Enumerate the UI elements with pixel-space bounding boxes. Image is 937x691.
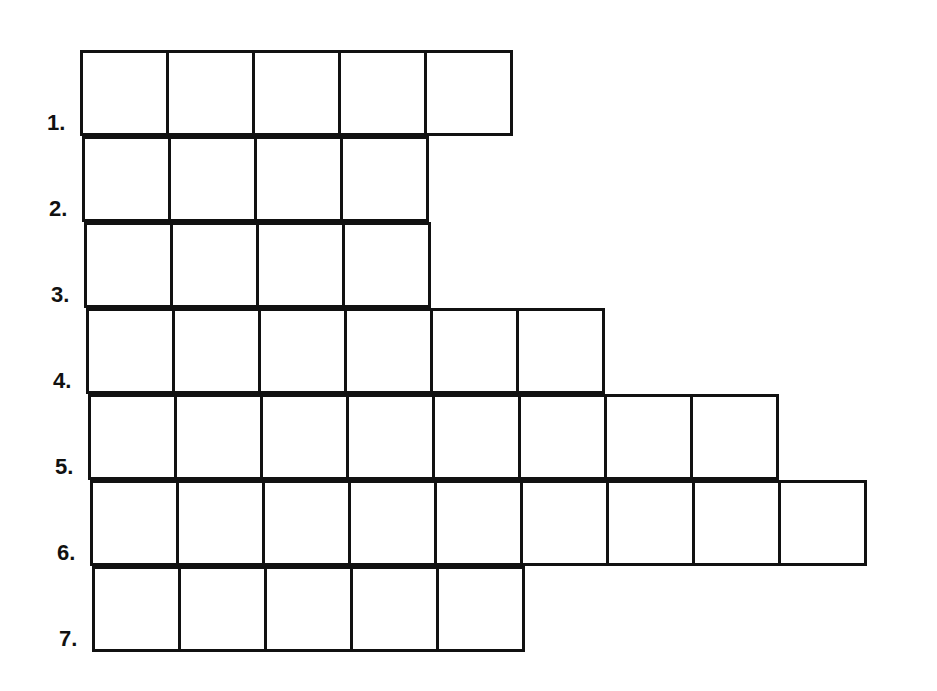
- letter-cell[interactable]: [344, 308, 433, 394]
- grid-row-5: [88, 394, 776, 477]
- letter-cell[interactable]: [168, 136, 257, 222]
- grid-row-1: [80, 50, 510, 133]
- letter-cell[interactable]: [606, 480, 695, 566]
- letter-cell[interactable]: [92, 566, 181, 652]
- letter-cell[interactable]: [80, 50, 169, 136]
- row-number-label: 3.: [51, 282, 69, 308]
- letter-cell[interactable]: [84, 222, 173, 308]
- letter-cell[interactable]: [692, 480, 781, 566]
- letter-cell[interactable]: [86, 308, 175, 394]
- grid-row-2: [82, 136, 426, 219]
- letter-cell[interactable]: [178, 566, 267, 652]
- letter-cell[interactable]: [778, 480, 867, 566]
- letter-cell[interactable]: [340, 136, 429, 222]
- letter-cell[interactable]: [338, 50, 427, 136]
- letter-cell[interactable]: [604, 394, 693, 480]
- letter-cell[interactable]: [264, 566, 353, 652]
- letter-cell[interactable]: [252, 50, 341, 136]
- letter-cell[interactable]: [434, 480, 523, 566]
- letter-cell[interactable]: [258, 308, 347, 394]
- letter-cell[interactable]: [346, 394, 435, 480]
- letter-cell[interactable]: [436, 566, 525, 652]
- letter-cell[interactable]: [424, 50, 513, 136]
- row-number-label: 6.: [57, 540, 75, 566]
- grid-row-3: [84, 222, 428, 305]
- grid-row-7: [92, 566, 522, 649]
- letter-cell[interactable]: [350, 566, 439, 652]
- letter-cell[interactable]: [260, 394, 349, 480]
- letter-cell[interactable]: [166, 50, 255, 136]
- letter-cell[interactable]: [254, 136, 343, 222]
- row-number-label: 2.: [49, 196, 67, 222]
- letter-cell[interactable]: [256, 222, 345, 308]
- letter-cell[interactable]: [174, 394, 263, 480]
- grid-row-6: [90, 480, 864, 563]
- letter-cell[interactable]: [432, 394, 521, 480]
- letter-cell[interactable]: [348, 480, 437, 566]
- letter-cell[interactable]: [90, 480, 179, 566]
- letter-cell[interactable]: [88, 394, 177, 480]
- letter-cell[interactable]: [516, 308, 605, 394]
- letter-cell[interactable]: [518, 394, 607, 480]
- letter-cell[interactable]: [262, 480, 351, 566]
- row-number-label: 7.: [59, 626, 77, 652]
- letter-cell[interactable]: [176, 480, 265, 566]
- word-grid-puzzle: 1.2.3.4.5.6.7.: [0, 0, 937, 691]
- row-number-label: 1.: [47, 110, 65, 136]
- letter-cell[interactable]: [430, 308, 519, 394]
- letter-cell[interactable]: [342, 222, 431, 308]
- grid-row-4: [86, 308, 602, 391]
- letter-cell[interactable]: [82, 136, 171, 222]
- letter-cell[interactable]: [690, 394, 779, 480]
- row-number-label: 5.: [55, 454, 73, 480]
- letter-cell[interactable]: [170, 222, 259, 308]
- letter-cell[interactable]: [172, 308, 261, 394]
- letter-cell[interactable]: [520, 480, 609, 566]
- row-number-label: 4.: [53, 368, 71, 394]
